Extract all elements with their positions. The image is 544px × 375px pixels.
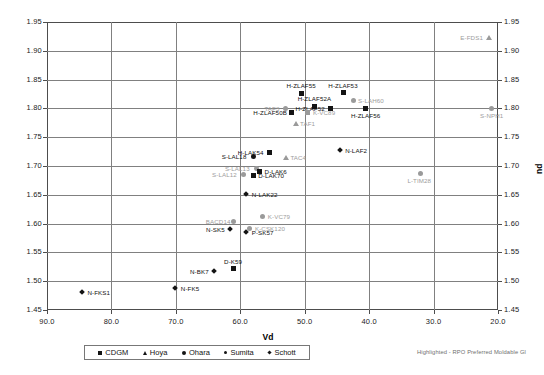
x-axis-tick-label: 70.0 <box>156 317 196 326</box>
data-point-label: D-K59 <box>224 258 242 265</box>
data-point-label: H-ZLAF55 <box>286 82 315 89</box>
chart-legend: CDGMHoyaOharaSumitaSchott <box>84 345 310 360</box>
y-axis-tick <box>498 166 502 167</box>
data-point-label: H-ZLAF52A <box>298 95 332 102</box>
data-point-label: S-LAL18 <box>222 153 247 160</box>
x-axis-tick <box>47 310 48 314</box>
data-point-marker <box>251 173 256 178</box>
x-axis-tick <box>176 310 177 314</box>
data-point-marker <box>251 154 256 159</box>
data-point-marker <box>489 106 494 111</box>
data-point-label: K-VC89 <box>313 109 335 116</box>
y-axis-tick-label: 1.50 <box>504 276 538 285</box>
data-point-label: TAF1 <box>300 120 315 127</box>
legend-item-label: Ohara <box>189 348 210 357</box>
y-axis-tick <box>498 281 502 282</box>
y-axis-tick <box>498 224 502 225</box>
data-point-label: H-ZLAF53 <box>328 82 357 89</box>
data-point-label: H-ZLAF50B <box>253 109 287 116</box>
data-point-marker <box>283 155 289 160</box>
x-axis-tick <box>111 310 112 314</box>
gridline-horizontal <box>47 281 498 282</box>
data-point-label: S-LAH60 <box>358 97 384 104</box>
data-point-label: H-ZLAF56 <box>351 112 380 119</box>
chart-annotation: Highlighted - RPO Preferred Moldable Gl <box>417 349 526 355</box>
y-axis-tick-label: 1.95 <box>8 17 42 26</box>
x-axis-tick-label: 80.0 <box>91 317 131 326</box>
data-point-marker <box>289 110 294 115</box>
y-axis-tick <box>43 252 47 253</box>
data-point-label: N-LAK22 <box>252 191 278 198</box>
y-axis-tick <box>43 137 47 138</box>
gridline-horizontal <box>47 51 498 52</box>
y-axis-tick-label: 1.85 <box>8 75 42 84</box>
data-point-label: K-VC79 <box>268 213 290 220</box>
legend-item-schott[interactable]: Schott <box>268 348 295 357</box>
y-axis-tick <box>498 22 502 23</box>
data-point-marker <box>305 110 310 115</box>
y-axis-tick-label: 1.90 <box>8 46 42 55</box>
x-axis-title: Vd <box>263 332 274 342</box>
y-axis-tick-label: 1.70 <box>8 161 42 170</box>
legend-item-hoya[interactable]: Hoya <box>143 348 168 357</box>
x-axis-tick-label: 30.0 <box>414 317 454 326</box>
x-axis-tick-label: 90.0 <box>27 317 67 326</box>
data-point-label: P-SK57 <box>252 229 274 236</box>
x-axis-tick <box>434 310 435 314</box>
y-axis-tick-label: 1.55 <box>8 247 42 256</box>
legend-item-label: CDGM <box>105 348 128 357</box>
x-axis-tick-label: 50.0 <box>285 317 325 326</box>
y-axis-tick <box>43 51 47 52</box>
data-point-marker <box>341 90 346 95</box>
data-point-label: TAC4 <box>290 154 306 161</box>
legend-item-label: Schott <box>274 348 295 357</box>
y-axis-tick-label: 1.45 <box>8 305 42 314</box>
legend-marker-icon <box>268 350 272 354</box>
y-axis-tick-label: 1.65 <box>8 190 42 199</box>
data-point-label: N-FKS1 <box>87 289 110 296</box>
legend-marker-icon <box>224 351 227 354</box>
y-axis-tick-label: 1.55 <box>504 247 538 256</box>
y-axis-tick <box>498 195 502 196</box>
y-axis-tick-label: 1.95 <box>504 17 538 26</box>
data-point-label: N-BK7 <box>190 268 209 275</box>
y-axis-tick <box>43 22 47 23</box>
data-point-label: S-NPH1 <box>480 112 503 119</box>
legend-marker-icon <box>98 351 102 355</box>
data-point-marker <box>260 214 265 219</box>
data-point-label: N-FK5 <box>181 285 199 292</box>
legend-item-cdgm[interactable]: CDGM <box>98 348 128 357</box>
gridline-horizontal <box>47 137 498 138</box>
y-axis-tick <box>43 108 47 109</box>
x-axis-tick <box>240 310 241 314</box>
y-axis-tick <box>498 80 502 81</box>
y-axis-tick-label: 1.60 <box>8 219 42 228</box>
legend-item-label: Sumita <box>230 348 253 357</box>
y-axis-tick <box>43 224 47 225</box>
y-axis-tick-label: 1.85 <box>504 75 538 84</box>
y-axis-tick-label: 1.50 <box>8 276 42 285</box>
gridline-horizontal <box>47 166 498 167</box>
y-axis-tick-label: 1.75 <box>504 132 538 141</box>
legend-marker-icon <box>182 351 186 355</box>
y-axis-tick-label: 1.80 <box>8 103 42 112</box>
legend-item-sumita[interactable]: Sumita <box>224 348 253 357</box>
x-axis-tick <box>369 310 370 314</box>
data-point-label: N-LAF2 <box>345 147 367 154</box>
gridline-horizontal <box>47 252 498 253</box>
data-point-label: N-SK5 <box>206 226 225 233</box>
data-point-label: E-FDS1 <box>460 34 483 41</box>
data-point-marker <box>486 35 492 40</box>
data-point-marker <box>293 121 299 126</box>
x-axis-tick-label: 60.0 <box>220 317 260 326</box>
y-axis-title: nd <box>534 164 544 174</box>
y-axis-tick <box>498 252 502 253</box>
data-point-label: S-LAL12 <box>212 171 237 178</box>
legend-item-ohara[interactable]: Ohara <box>182 348 210 357</box>
x-axis-tick-label: 40.0 <box>349 317 389 326</box>
x-axis-tick <box>498 310 499 314</box>
y-axis-tick <box>43 166 47 167</box>
y-axis-tick-label: 1.45 <box>504 305 538 314</box>
data-point-label: L-TIM28 <box>407 177 431 184</box>
y-axis-tick <box>498 108 502 109</box>
